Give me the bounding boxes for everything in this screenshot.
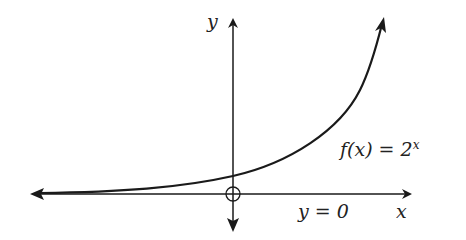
y-axis-label: y: [207, 10, 218, 32]
function-label-base: f(x) = 2: [340, 138, 413, 160]
x-axis-label: x: [396, 200, 407, 222]
function-label-exponent: x: [413, 138, 420, 152]
asymptote-label: y = 0: [298, 200, 349, 222]
exponential-curve: [40, 24, 382, 193]
function-label: f(x) = 2x: [340, 138, 419, 160]
